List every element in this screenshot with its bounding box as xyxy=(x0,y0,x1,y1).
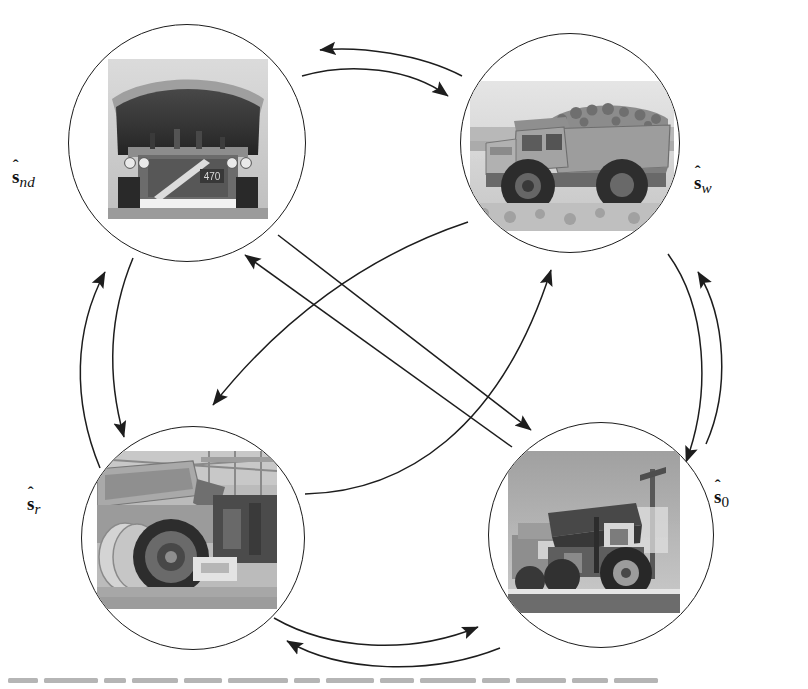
state-label-r: ˆsr xyxy=(27,494,41,516)
state-subscript-0: 0 xyxy=(721,493,729,510)
edge-r-to-nd xyxy=(80,272,105,468)
maintenance-workshop-artwork xyxy=(97,451,277,609)
idle-trucks-parked-yard-photo xyxy=(508,451,680,613)
state-subscript-w: w xyxy=(701,179,711,196)
state-label-w: ˆsw xyxy=(694,173,712,195)
edge-r-to-0 xyxy=(274,618,478,645)
state-subscript-nd: nd xyxy=(19,173,35,190)
diagram-canvas: 470 ˆsnd xyxy=(0,0,808,689)
state-symbol-r: ˆs xyxy=(27,494,34,513)
edge-w-to-r xyxy=(213,222,468,405)
edge-nd-to-w xyxy=(302,69,448,96)
loaded-haul-truck-working-artwork xyxy=(470,81,674,231)
state-symbol-nd: ˆs xyxy=(12,167,19,186)
haul-truck-front-view-artwork: 470 xyxy=(108,59,268,219)
edge-nd-to-0 xyxy=(278,235,531,430)
state-node-nd[interactable]: 470 xyxy=(68,24,306,262)
svg-text:470: 470 xyxy=(204,171,221,182)
idle-trucks-yard-artwork xyxy=(508,451,680,613)
hat-accent-r: ˆ xyxy=(28,484,34,501)
truck-in-maintenance-workshop-photo xyxy=(97,451,277,609)
hat-accent-w: ˆ xyxy=(695,163,701,180)
state-node-w[interactable] xyxy=(460,33,680,253)
edge-w-to-0 xyxy=(668,254,702,462)
state-subscript-r: r xyxy=(34,500,40,517)
state-label-nd: ˆsnd xyxy=(12,167,35,189)
cropped-caption-strip xyxy=(0,671,808,689)
edge-0-to-nd xyxy=(245,255,512,447)
hat-accent-0: ˆ xyxy=(715,477,721,494)
edge-nd-to-r xyxy=(113,258,133,437)
state-node-r[interactable] xyxy=(81,426,305,650)
state-node-0[interactable] xyxy=(488,422,714,648)
hat-accent-nd: ˆ xyxy=(13,157,19,174)
haul-truck-front-view-photo: 470 xyxy=(108,59,268,219)
state-symbol-w: ˆs xyxy=(694,173,701,192)
loaded-haul-truck-working-photo xyxy=(470,81,674,231)
state-label-0: ˆs0 xyxy=(714,487,729,509)
state-symbol-0: ˆs xyxy=(714,487,721,506)
